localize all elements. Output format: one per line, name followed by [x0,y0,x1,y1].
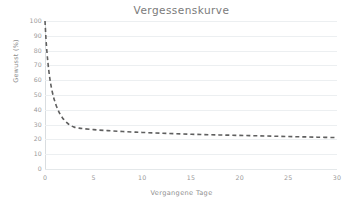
y-tick-label-80: 80 [20,47,42,54]
y-tick-label-0: 0 [20,165,42,172]
forgetting-curve-chart: Vergessenskurve Gewusst (%) Vergangene T… [0,0,363,206]
y-tick-label-10: 10 [20,150,42,157]
x-tick-label-30: 30 [324,174,350,181]
y-tick-label-20: 20 [20,135,42,142]
x-tick-label-0: 0 [32,174,58,181]
x-tick-label-5: 5 [81,174,107,181]
x-tick-label-15: 15 [178,174,204,181]
y-axis-title: Gewusst (%) [12,31,20,91]
y-tick-label-50: 50 [20,91,42,98]
x-tick-label-20: 20 [227,174,253,181]
y-tick-label-60: 60 [20,76,42,83]
forgetting-curve-line [45,21,337,138]
curve-plot [45,21,337,169]
y-tick-label-70: 70 [20,61,42,68]
chart-title: Vergessenskurve [0,4,363,16]
x-axis-title: Vergangene Tage [0,189,363,197]
plot-area [45,21,337,169]
y-tick-label-30: 30 [20,121,42,128]
x-tick-label-25: 25 [275,174,301,181]
x-tick-label-10: 10 [129,174,155,181]
y-tick-label-40: 40 [20,106,42,113]
y-tick-label-100: 100 [20,17,42,24]
gridline-y-0 [45,169,337,170]
y-tick-label-90: 90 [20,32,42,39]
